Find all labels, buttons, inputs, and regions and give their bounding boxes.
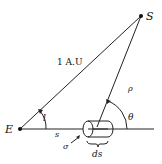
label-ds: ds <box>92 149 103 159</box>
label-sun: S <box>146 10 154 23</box>
label-sigma: σ <box>63 142 69 151</box>
label-l: l <box>43 113 46 123</box>
label-earth: E <box>4 123 13 136</box>
label-theta: θ <box>128 112 134 122</box>
diagram: E S 1 A.U ρ θ l s σ ds <box>0 0 162 164</box>
point-earth <box>18 127 22 131</box>
angle-theta-arc <box>108 101 127 129</box>
line-earth-sun <box>20 16 141 129</box>
label-rho: ρ <box>127 84 133 93</box>
line-rho <box>97 16 141 127</box>
ds-brace <box>87 141 108 147</box>
label-distance: 1 A.U <box>57 57 83 67</box>
label-s: s <box>55 130 59 139</box>
point-sun <box>139 14 143 18</box>
